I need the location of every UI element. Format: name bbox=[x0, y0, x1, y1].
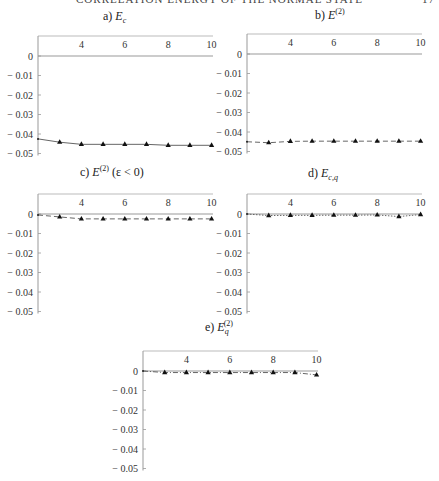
y-tick-label: − 0.03 bbox=[7, 267, 33, 278]
x-tick-label: 8 bbox=[375, 197, 380, 208]
panel-subscript: c bbox=[123, 16, 127, 25]
panel-title-c: c) E(2) (ε < 0) bbox=[80, 164, 144, 180]
x-tick-label: 4 bbox=[79, 39, 84, 50]
triangle-marker-icon bbox=[331, 138, 336, 143]
page-number: 17 bbox=[422, 0, 435, 5]
triangle-marker-icon bbox=[292, 370, 297, 375]
x-tick-label: 6 bbox=[331, 197, 336, 208]
y-tick-label: − 0.01 bbox=[216, 228, 242, 239]
x-tick-label: 6 bbox=[122, 197, 127, 208]
y-tick-label: − 0.02 bbox=[216, 88, 242, 99]
triangle-marker-icon bbox=[209, 216, 214, 221]
y-tick-label: − 0.01 bbox=[216, 68, 242, 79]
panel-label: a) bbox=[103, 9, 112, 23]
triangle-marker-icon bbox=[206, 370, 211, 375]
triangle-marker-icon bbox=[271, 370, 276, 375]
data-point bbox=[246, 141, 248, 143]
y-tick-label: − 0.01 bbox=[7, 228, 33, 239]
panel-label: d) bbox=[308, 166, 318, 180]
running-header: CORRELATION ENERGY OF THE NORMAL STATE 1… bbox=[0, 0, 439, 5]
data-point bbox=[246, 213, 248, 215]
panel-title-b: b) E(2) bbox=[315, 7, 345, 23]
triangle-marker-icon bbox=[227, 370, 232, 375]
plot-a: 468100− 0.01− 0.02− 0.03− 0.04− 0.05 bbox=[38, 36, 223, 161]
panel-superscript: (2) bbox=[224, 319, 233, 328]
triangle-marker-icon bbox=[187, 216, 192, 221]
y-tick-label: − 0.04 bbox=[216, 127, 242, 138]
y-tick-label: − 0.05 bbox=[112, 463, 138, 474]
x-tick-label: 4 bbox=[79, 197, 84, 208]
y-tick-label: − 0.01 bbox=[112, 385, 138, 396]
triangle-marker-icon bbox=[166, 142, 171, 147]
x-tick-label: 10 bbox=[312, 354, 322, 365]
triangle-marker-icon bbox=[101, 141, 106, 146]
triangle-marker-icon bbox=[418, 138, 423, 143]
panel-superscript: (2) bbox=[335, 7, 344, 16]
x-tick-label: 4 bbox=[184, 354, 189, 365]
triangle-marker-icon bbox=[375, 138, 380, 143]
y-tick-label: − 0.02 bbox=[7, 90, 33, 101]
plot-b: 468100− 0.01− 0.02− 0.03− 0.04− 0.05 bbox=[247, 34, 432, 159]
y-tick-label: − 0.03 bbox=[7, 109, 33, 120]
x-tick-label: 8 bbox=[166, 39, 171, 50]
panel-subscript: c,q bbox=[328, 173, 338, 182]
y-tick-label: − 0.03 bbox=[216, 267, 242, 278]
triangle-marker-icon bbox=[162, 370, 167, 375]
panel-symbol: E bbox=[92, 165, 99, 179]
panel-superscript: (2) bbox=[100, 164, 109, 173]
y-tick-label: 0 bbox=[28, 51, 33, 62]
x-tick-label: 6 bbox=[227, 354, 232, 365]
y-tick-label: − 0.02 bbox=[112, 405, 138, 416]
panel-title-d: d) Ec,q bbox=[308, 166, 338, 182]
y-tick-label: − 0.04 bbox=[7, 129, 33, 140]
y-tick-label: − 0.03 bbox=[112, 424, 138, 435]
x-tick-label: 8 bbox=[271, 354, 276, 365]
y-tick-label: − 0.04 bbox=[112, 444, 138, 455]
data-point bbox=[142, 370, 144, 372]
triangle-marker-icon bbox=[79, 216, 84, 221]
triangle-marker-icon bbox=[166, 216, 171, 221]
y-tick-label: − 0.05 bbox=[7, 306, 33, 317]
triangle-marker-icon bbox=[122, 141, 127, 146]
triangle-marker-icon bbox=[266, 213, 271, 218]
triangle-marker-icon bbox=[288, 212, 293, 217]
triangle-marker-icon bbox=[184, 370, 189, 375]
y-tick-label: 0 bbox=[133, 366, 138, 377]
triangle-marker-icon bbox=[314, 372, 319, 377]
y-tick-label: − 0.05 bbox=[216, 146, 242, 157]
x-tick-label: 4 bbox=[288, 37, 293, 48]
panel-label: b) bbox=[315, 8, 325, 22]
triangle-marker-icon bbox=[209, 142, 214, 147]
x-tick-label: 10 bbox=[207, 39, 217, 50]
panel-symbol: E bbox=[115, 9, 122, 23]
y-tick-label: 0 bbox=[237, 209, 242, 220]
data-point bbox=[37, 214, 39, 216]
panel-suffix: (ε < 0) bbox=[112, 165, 144, 179]
x-tick-label: 10 bbox=[416, 37, 426, 48]
y-tick-label: 0 bbox=[237, 49, 242, 60]
y-tick-label: − 0.01 bbox=[7, 70, 33, 81]
x-tick-label: 6 bbox=[122, 39, 127, 50]
y-tick-label: − 0.03 bbox=[216, 107, 242, 118]
running-header-text: CORRELATION ENERGY OF THE NORMAL STATE bbox=[76, 0, 363, 5]
y-tick-label: − 0.02 bbox=[216, 248, 242, 259]
plot-c: 468100− 0.01− 0.02− 0.03− 0.04− 0.05 bbox=[38, 194, 223, 319]
triangle-marker-icon bbox=[310, 138, 315, 143]
y-tick-label: − 0.05 bbox=[216, 306, 242, 317]
data-point bbox=[37, 138, 39, 140]
triangle-marker-icon bbox=[396, 138, 401, 143]
y-tick-label: − 0.02 bbox=[7, 248, 33, 259]
x-tick-label: 4 bbox=[288, 197, 293, 208]
triangle-marker-icon bbox=[353, 138, 358, 143]
x-tick-label: 8 bbox=[375, 37, 380, 48]
triangle-marker-icon bbox=[187, 142, 192, 147]
triangle-marker-icon bbox=[57, 214, 62, 219]
panel-label: c) bbox=[80, 165, 89, 179]
y-tick-label: − 0.04 bbox=[216, 287, 242, 298]
triangle-marker-icon bbox=[101, 216, 106, 221]
triangle-marker-icon bbox=[249, 370, 254, 375]
triangle-marker-icon bbox=[288, 138, 293, 143]
panel-label: e) bbox=[205, 320, 214, 334]
triangle-marker-icon bbox=[122, 216, 127, 221]
triangle-marker-icon bbox=[79, 141, 84, 146]
